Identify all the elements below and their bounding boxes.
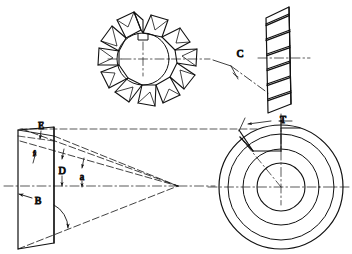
edge-view xyxy=(213,7,310,113)
angle-C-construction xyxy=(213,60,268,93)
label-T: T xyxy=(280,114,286,125)
cone-construction xyxy=(18,129,178,249)
drawing-canvas: C xyxy=(0,0,352,254)
section-view-top-land xyxy=(18,130,54,136)
dimension-arrow-E xyxy=(40,131,41,139)
end-view-tooth-notch xyxy=(239,128,300,151)
section-view-relief-line xyxy=(18,136,54,141)
technical-drawing-sheet: C xyxy=(0,0,352,254)
dimension-arrow-a-upper xyxy=(82,158,84,168)
face-view-keyway xyxy=(138,34,148,40)
face-view xyxy=(98,12,210,106)
section-view-angle-arc xyxy=(54,205,68,228)
dimension-arrow-D-upper xyxy=(62,149,64,159)
label-f: f xyxy=(33,149,36,158)
dimension-T-arrow-left xyxy=(248,121,271,124)
edge-view-back-edge xyxy=(289,7,291,104)
edge-view-tooth-lines xyxy=(266,14,291,101)
end-view xyxy=(208,118,352,249)
label-C: C xyxy=(237,48,244,59)
label-B: B xyxy=(35,195,42,206)
label-a: a xyxy=(80,171,85,182)
label-D: D xyxy=(58,165,65,176)
section-view xyxy=(4,127,258,249)
label-E: E xyxy=(38,120,44,131)
dimension-arrow-B xyxy=(19,194,32,198)
